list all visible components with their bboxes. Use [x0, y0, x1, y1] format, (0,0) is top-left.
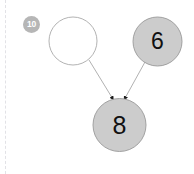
edge-a-to-c — [89, 60, 114, 100]
diagram-canvas: 6 8 10 — [0, 0, 194, 174]
step-badge-label: 10 — [27, 20, 36, 29]
edge-b-to-c — [124, 62, 145, 100]
node-a-circle[interactable] — [49, 17, 97, 65]
node-c-circle[interactable] — [93, 99, 146, 152]
step-badge: 10 — [23, 16, 40, 33]
node-b-circle[interactable] — [133, 17, 182, 66]
